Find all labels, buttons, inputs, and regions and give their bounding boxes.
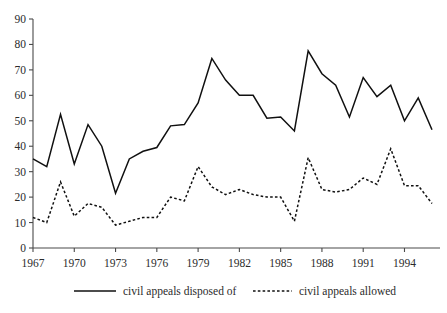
x-tick-group — [33, 248, 404, 252]
y-tick-label: 60 — [15, 89, 27, 101]
y-tick-label: 90 — [15, 13, 27, 25]
x-tick-label: 1976 — [145, 257, 168, 269]
legend-label-disposed-of: civil appeals disposed of — [123, 285, 237, 298]
y-tick-label: 50 — [15, 115, 27, 127]
x-tick-label: 1967 — [22, 257, 45, 269]
x-tick-label-group: 1967197019731976197919821985198819911994 — [22, 257, 417, 269]
line-chart-svg: 0102030405060708090 19671970197319761979… — [0, 0, 447, 313]
y-tick-label: 30 — [15, 166, 27, 178]
x-tick-label: 1970 — [63, 257, 86, 269]
x-tick-label: 1991 — [352, 257, 375, 269]
x-tick-label: 1985 — [269, 257, 292, 269]
y-tick-label: 80 — [15, 38, 27, 50]
x-tick-label: 1982 — [228, 257, 251, 269]
y-tick-label-group: 0102030405060708090 — [15, 13, 27, 254]
series-civil-appeals-disposed-of — [33, 51, 432, 193]
x-axis: 1967197019731976197919821985198819911994 — [22, 248, 441, 269]
y-axis: 0102030405060708090 — [15, 13, 34, 254]
legend-label-allowed: civil appeals allowed — [299, 285, 396, 298]
series-civil-appeals-allowed — [33, 149, 432, 225]
x-tick-label: 1994 — [393, 257, 416, 269]
x-tick-label: 1988 — [310, 257, 333, 269]
y-tick-label: 70 — [15, 64, 27, 76]
x-tick-label: 1979 — [187, 257, 210, 269]
y-tick-group — [29, 19, 33, 248]
chart-legend: civil appeals disposed of civil appeals … — [74, 285, 396, 298]
y-tick-label: 20 — [15, 191, 27, 203]
plot-area — [33, 51, 432, 225]
y-tick-label: 40 — [15, 140, 27, 152]
y-tick-label: 0 — [20, 242, 26, 254]
y-tick-label: 10 — [15, 217, 27, 229]
chart-figure: 0102030405060708090 19671970197319761979… — [0, 0, 447, 313]
x-tick-label: 1973 — [104, 257, 127, 269]
